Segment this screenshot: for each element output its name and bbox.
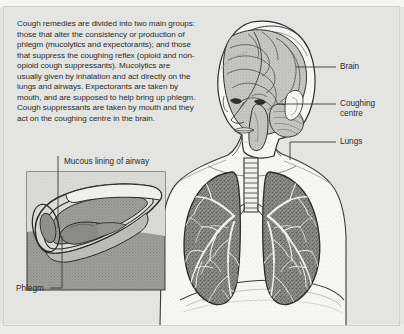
label-coughing-centre: Coughing centre — [340, 99, 375, 118]
label-phlegm: Phlegm — [16, 284, 44, 294]
label-lungs: Lungs — [340, 137, 362, 147]
head — [218, 21, 315, 158]
label-mucous-lining-of-airway: Mucous lining of airway — [64, 157, 149, 167]
trachea — [244, 158, 258, 212]
caption-text: Cough remedies are divided into two main… — [17, 19, 197, 124]
label-brain: Brain — [340, 62, 359, 72]
cough-remedies-figure: Cough remedies are divided into two main… — [0, 0, 404, 334]
airway-inset — [27, 172, 165, 290]
